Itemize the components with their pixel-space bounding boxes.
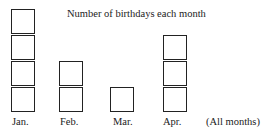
birthday-box (163, 61, 187, 86)
column-mar (110, 86, 134, 112)
birthday-box (11, 35, 35, 60)
birthday-box (11, 9, 35, 34)
month-label: Jan. (12, 116, 29, 127)
axis-note: (All months) (206, 116, 260, 127)
column-jan (11, 8, 35, 112)
month-label: Mar. (113, 116, 133, 127)
column-feb (59, 60, 83, 112)
column-apr (163, 34, 187, 112)
birthday-box (110, 87, 134, 112)
birthday-box (11, 87, 35, 112)
birthday-box (163, 87, 187, 112)
birthday-box (59, 87, 83, 112)
month-label: Feb. (60, 116, 78, 127)
birthday-box (59, 61, 83, 86)
birthday-box (11, 61, 35, 86)
month-label: Apr. (163, 116, 181, 127)
birthday-box (163, 35, 187, 60)
chart-title: Number of birthdays each month (67, 8, 206, 19)
